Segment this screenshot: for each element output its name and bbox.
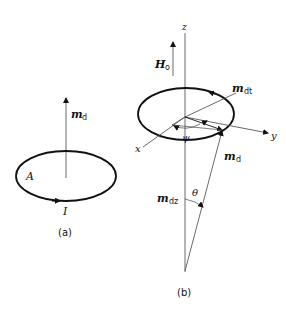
x-axis-label: x — [135, 143, 141, 154]
panel-a: m d A I (a) — [16, 98, 116, 238]
y-projection — [172, 117, 185, 125]
moment-label-b: m — [224, 150, 236, 163]
moment-line-b — [185, 131, 222, 271]
y-axis-label: y — [270, 130, 277, 141]
caption-a: (a) — [58, 227, 72, 238]
x-axis — [143, 117, 185, 147]
transverse-label: m — [232, 82, 244, 95]
psi-label: ψ — [182, 132, 190, 143]
moment-label-a: m — [71, 108, 83, 121]
area-label: A — [25, 170, 34, 183]
transverse-sub: dt — [244, 87, 252, 96]
theta-arc — [185, 199, 203, 207]
current-label: I — [62, 205, 68, 218]
magnetic-dipole-diagram: m d A I (a) z H o x y m dt ψ — [0, 0, 286, 311]
z-axis-label: z — [181, 22, 187, 32]
psi-arc-arrow-2 — [203, 121, 207, 123]
moment-sub-b: d — [236, 155, 241, 164]
caption-b: (b) — [177, 287, 191, 298]
panel-b: z H o x y m dt ψ m d m dz θ — [135, 22, 277, 298]
axial-sub: dz — [169, 197, 178, 206]
transverse-moment-line — [185, 93, 236, 117]
field-sub: o — [165, 63, 170, 72]
axial-label: m — [157, 192, 169, 205]
moment-sub-a: d — [82, 113, 87, 122]
theta-label: θ — [192, 187, 198, 198]
